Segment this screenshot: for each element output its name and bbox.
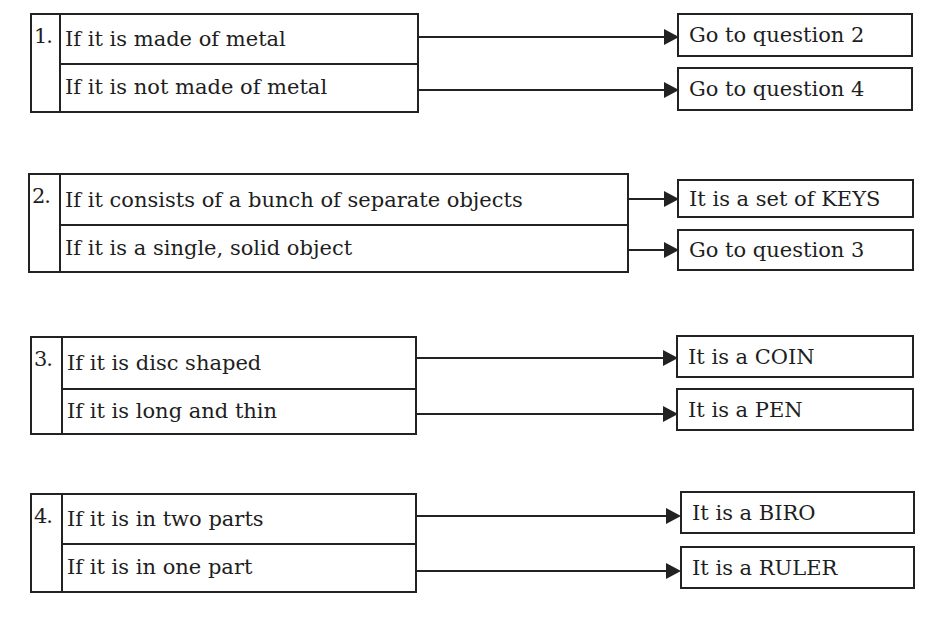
question-number: 4. <box>32 495 63 591</box>
question-2-box: 2. If it consists of a bunch of separate… <box>28 173 629 273</box>
right-arrow-icon <box>419 36 665 38</box>
result-2b: Go to question 3 <box>677 229 914 271</box>
condition-4a: If it is in two parts <box>61 495 415 545</box>
result-4a: It is a BIRO <box>680 491 915 534</box>
condition-1a: If it is made of metal <box>59 15 417 65</box>
result-2a: It is a set of KEYS <box>677 179 914 218</box>
question-3-box: 3. If it is disc shaped If it is long an… <box>30 336 417 435</box>
right-arrow-icon <box>417 357 664 359</box>
result-4b: It is a RULER <box>680 546 915 589</box>
right-arrow-icon <box>417 413 664 415</box>
condition-2b: If it is a single, solid object <box>59 224 627 271</box>
result-1a: Go to question 2 <box>677 13 913 57</box>
condition-1b: If it is not made of metal <box>59 63 417 111</box>
question-number: 2. <box>30 175 61 271</box>
right-arrow-icon <box>629 198 665 200</box>
question-1-box: 1. If it is made of metal If it is not m… <box>30 13 419 113</box>
right-arrow-icon <box>419 89 665 91</box>
result-1b: Go to question 4 <box>677 67 913 111</box>
question-4-box: 4. If it is in two parts If it is in one… <box>30 493 417 593</box>
result-3b: It is a PEN <box>676 388 914 431</box>
condition-2a: If it consists of a bunch of separate ob… <box>59 175 627 226</box>
condition-4b: If it is in one part <box>61 543 415 591</box>
question-number: 3. <box>32 338 63 433</box>
question-number: 1. <box>32 15 61 111</box>
condition-3a: If it is disc shaped <box>61 338 415 390</box>
right-arrow-icon <box>417 515 667 517</box>
right-arrow-icon <box>417 570 667 572</box>
result-3a: It is a COIN <box>676 335 914 378</box>
right-arrow-icon <box>629 249 665 251</box>
condition-3b: If it is long and thin <box>61 388 415 433</box>
